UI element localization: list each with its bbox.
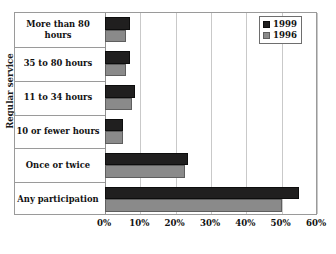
bar-1996 — [105, 131, 123, 144]
bar-1999 — [105, 17, 130, 30]
category-separator — [15, 115, 105, 116]
bar-1996 — [105, 64, 126, 77]
gridline-30pct — [211, 13, 212, 214]
category-label: Any participation — [15, 194, 101, 205]
x-axis-tick-label: 0% — [89, 218, 119, 228]
bar-1996 — [105, 165, 185, 178]
gridline-20pct — [176, 13, 177, 214]
category-label: 10 or fewer hours — [15, 126, 101, 137]
gridline-10pct — [140, 13, 141, 214]
gridline-60pct — [317, 13, 318, 214]
bar-chart: Regular service More than 80 hours35 to … — [0, 0, 336, 254]
legend-label: 1996 — [273, 31, 297, 40]
legend-label: 1999 — [273, 20, 297, 29]
legend-item: 1996 — [263, 30, 297, 41]
category-label-column: More than 80 hours35 to 80 hours11 to 34… — [15, 13, 105, 214]
category-label: 11 to 34 hours — [15, 92, 101, 103]
bar-1999 — [105, 85, 135, 98]
bar-1999 — [105, 119, 123, 132]
category-separator — [15, 148, 105, 149]
bar-1999 — [105, 51, 130, 64]
category-label: More than 80 hours — [15, 19, 101, 40]
category-label: 35 to 80 hours — [15, 58, 101, 69]
x-axis-tick-label: 20% — [160, 218, 190, 228]
bar-1999 — [105, 153, 188, 166]
x-axis-tick-label: 60% — [301, 218, 331, 228]
bar-1996 — [105, 98, 132, 111]
legend-swatch-icon — [263, 32, 270, 39]
category-separator — [15, 182, 105, 183]
x-axis-tick-label: 40% — [230, 218, 260, 228]
legend: 19991996 — [259, 16, 302, 44]
x-axis-tick-label: 30% — [195, 218, 225, 228]
x-axis-tick-label: 10% — [124, 218, 154, 228]
category-separator — [15, 47, 105, 48]
gridline-0pct — [105, 13, 106, 214]
legend-swatch-icon — [263, 21, 270, 28]
legend-item: 1999 — [263, 19, 297, 30]
category-separator — [15, 81, 105, 82]
gridline-40pct — [246, 13, 247, 214]
bar-1999 — [105, 187, 299, 200]
x-axis-tick-label: 50% — [266, 218, 296, 228]
bar-1996 — [105, 199, 282, 212]
category-label: Once or twice — [15, 160, 101, 171]
bar-1996 — [105, 30, 126, 43]
